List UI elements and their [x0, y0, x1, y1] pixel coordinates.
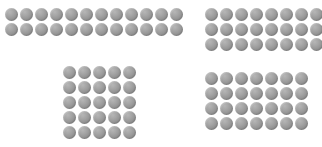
dot	[20, 23, 33, 36]
dot	[110, 8, 123, 21]
dot	[265, 117, 278, 130]
dot	[110, 23, 123, 36]
dot	[50, 23, 63, 36]
dot	[140, 8, 153, 21]
dot	[265, 102, 278, 115]
dot	[220, 102, 233, 115]
dot	[250, 117, 263, 130]
dot	[50, 8, 63, 21]
dot	[78, 81, 91, 94]
dot	[63, 81, 76, 94]
dot	[93, 66, 106, 79]
dot	[205, 102, 218, 115]
dot	[205, 23, 218, 36]
dot	[310, 23, 322, 36]
dot	[220, 87, 233, 100]
dot	[310, 38, 322, 51]
dot	[235, 87, 248, 100]
dot	[63, 96, 76, 109]
dot	[80, 23, 93, 36]
dot	[35, 23, 48, 36]
dot	[35, 8, 48, 21]
dot	[295, 117, 308, 130]
dot	[123, 111, 136, 124]
dot	[235, 23, 248, 36]
dot	[205, 8, 218, 21]
dot	[250, 23, 263, 36]
dot	[280, 72, 293, 85]
dot	[63, 111, 76, 124]
dot	[280, 102, 293, 115]
dot-array-canvas	[0, 0, 322, 147]
dot	[295, 72, 308, 85]
dot	[5, 23, 18, 36]
dot	[250, 102, 263, 115]
dot-cluster-bottom-right	[205, 72, 308, 130]
dot	[155, 8, 168, 21]
dot	[280, 117, 293, 130]
dot	[125, 23, 138, 36]
dot	[93, 111, 106, 124]
dot	[125, 8, 138, 21]
dot-cluster-top-right	[205, 8, 322, 51]
dot	[220, 23, 233, 36]
dot	[108, 111, 121, 124]
dot	[65, 23, 78, 36]
dot	[80, 8, 93, 21]
dot	[78, 111, 91, 124]
dot	[295, 8, 308, 21]
dot	[265, 87, 278, 100]
dot	[78, 126, 91, 139]
dot	[205, 87, 218, 100]
dot	[205, 38, 218, 51]
dot	[220, 117, 233, 130]
dot	[295, 102, 308, 115]
dot	[220, 8, 233, 21]
dot	[205, 117, 218, 130]
dot	[235, 117, 248, 130]
dot	[265, 8, 278, 21]
dot	[108, 66, 121, 79]
dot	[65, 8, 78, 21]
dot	[123, 96, 136, 109]
dot	[310, 8, 322, 21]
dot	[280, 87, 293, 100]
dot	[78, 96, 91, 109]
dot	[63, 66, 76, 79]
dot	[205, 72, 218, 85]
dot	[220, 72, 233, 85]
dot	[250, 87, 263, 100]
dot	[155, 23, 168, 36]
dot	[280, 38, 293, 51]
dot	[235, 72, 248, 85]
dot	[280, 8, 293, 21]
dot	[123, 81, 136, 94]
dot	[108, 126, 121, 139]
dot	[295, 38, 308, 51]
dot	[95, 23, 108, 36]
dot-cluster-top-left	[5, 8, 183, 36]
dot	[235, 8, 248, 21]
dot	[5, 8, 18, 21]
dot	[170, 8, 183, 21]
dot	[95, 8, 108, 21]
dot	[93, 126, 106, 139]
dot	[123, 126, 136, 139]
dot	[93, 96, 106, 109]
dot	[295, 87, 308, 100]
dot	[250, 38, 263, 51]
dot	[78, 66, 91, 79]
dot	[93, 81, 106, 94]
dot	[265, 23, 278, 36]
dot	[63, 126, 76, 139]
dot	[295, 23, 308, 36]
dot	[235, 102, 248, 115]
dot	[140, 23, 153, 36]
dot	[250, 8, 263, 21]
dot	[20, 8, 33, 21]
dot-cluster-bottom-left	[63, 66, 136, 139]
dot	[170, 23, 183, 36]
dot	[235, 38, 248, 51]
dot	[265, 38, 278, 51]
dot	[108, 81, 121, 94]
